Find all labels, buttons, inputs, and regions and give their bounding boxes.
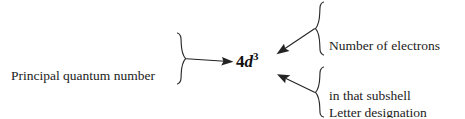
label-principal-quantum-number: Principal quantum number designation of … [11,35,155,118]
bottom-right-brace-icon [316,67,324,117]
label-letter-designation: Letter designation of subshell [329,72,427,118]
electron-configuration-formula: 4d3 [236,52,259,72]
left-arrow-shaft [187,59,226,61]
top-right-arrow-head-icon [277,44,290,54]
formula-principal-quantum-number: 4 [236,52,245,71]
bottom-right-arrow-head-icon [277,74,290,83]
formula-subshell-letter: d [245,52,254,71]
figure-canvas: Principal quantum number designation of … [0,0,465,118]
formula-electron-count: 3 [253,50,259,62]
bottom-right-arrow-shaft [286,79,315,93]
label-principal-quantum-number-line1: Principal quantum number [11,68,155,85]
label-number-of-electrons-line1: Number of electrons [329,38,440,55]
top-right-brace-icon [316,2,324,55]
left-arrow-head-icon [221,57,233,65]
label-principal-quantum-number-line2: designation of shell [11,118,155,119]
label-letter-designation-line1: Letter designation [329,105,427,118]
left-brace-icon [178,33,186,84]
top-right-arrow-shaft [285,29,315,49]
